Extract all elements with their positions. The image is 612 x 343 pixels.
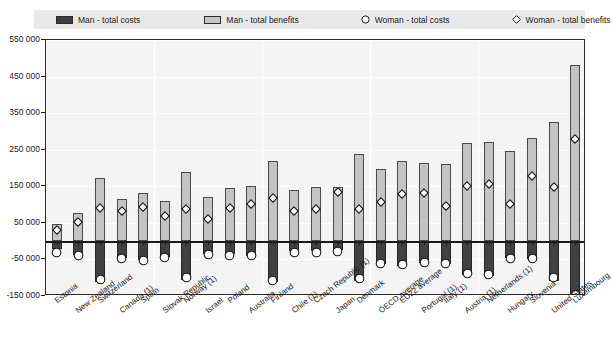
marker-woman-total-costs[interactable]: [73, 247, 84, 265]
marker-woman-total-costs[interactable]: [224, 247, 235, 265]
gridline-vertical: [370, 40, 371, 294]
marker-woman-total-costs[interactable]: [332, 243, 343, 261]
gridline-vertical: [154, 40, 155, 294]
marker-woman-total-costs[interactable]: [203, 246, 214, 264]
zero-axis-line: [46, 241, 584, 242]
y-axis-tick-label: 50 000: [0, 217, 40, 227]
diamond-outline-icon: [512, 15, 521, 24]
legend-item-man-total-benefits[interactable]: Man - total benefits: [204, 15, 298, 25]
legend-item-woman-total-benefits[interactable]: Woman - total benefits: [512, 15, 611, 25]
chart-legend: Man - total costs Man - total benefits W…: [34, 10, 585, 29]
marker-woman-total-costs[interactable]: [51, 244, 62, 262]
y-axis-tick: [41, 295, 45, 296]
y-axis-tick-label: 350 000: [0, 107, 40, 117]
legend-label: Woman - total costs: [375, 15, 450, 25]
marker-woman-total-costs[interactable]: [397, 256, 408, 274]
marker-woman-total-costs[interactable]: [483, 266, 494, 284]
legend-label: Woman - total benefits: [526, 15, 611, 25]
marker-woman-total-benefits[interactable]: [505, 195, 515, 213]
marker-woman-total-benefits[interactable]: [484, 175, 494, 193]
y-axis-tick-label: -150 000: [0, 290, 40, 300]
legend-label: Man - total costs: [78, 15, 140, 25]
gridline-vertical: [478, 40, 479, 294]
marker-woman-total-benefits[interactable]: [289, 202, 299, 220]
y-axis-tick-label: 150 000: [0, 180, 40, 190]
legend-item-woman-total-costs[interactable]: Woman - total costs: [361, 15, 450, 25]
marker-woman-total-costs[interactable]: [159, 249, 170, 267]
gridline-horizontal: [46, 40, 584, 41]
bar-man-total-benefits[interactable]: [354, 154, 364, 241]
filled-square-dark-icon: [56, 16, 73, 24]
gridline-horizontal: [46, 113, 584, 114]
y-axis-tick-label: 250 000: [0, 144, 40, 154]
y-axis-tick-label: 550 000: [0, 34, 40, 44]
y-axis-tick-label: -50 000: [0, 253, 40, 263]
marker-woman-total-costs[interactable]: [246, 247, 257, 265]
marker-woman-total-benefits[interactable]: [117, 202, 127, 220]
marker-woman-total-benefits[interactable]: [246, 195, 256, 213]
marker-woman-total-costs[interactable]: [116, 250, 127, 268]
marker-woman-total-benefits[interactable]: [138, 198, 148, 216]
legend-item-man-total-costs[interactable]: Man - total costs: [56, 15, 140, 25]
marker-woman-total-costs[interactable]: [311, 244, 322, 262]
marker-woman-total-benefits[interactable]: [203, 210, 213, 228]
gridline-horizontal: [46, 150, 584, 151]
marker-woman-total-benefits[interactable]: [160, 207, 170, 225]
marker-woman-total-costs[interactable]: [419, 254, 430, 272]
x-axis-tick-label: Israel: [204, 296, 225, 315]
marker-woman-total-benefits[interactable]: [419, 184, 429, 202]
marker-woman-total-benefits[interactable]: [397, 185, 407, 203]
marker-woman-total-benefits[interactable]: [95, 199, 105, 217]
x-axis-tick-label: Japan: [334, 295, 357, 316]
gridline-horizontal: [46, 77, 584, 78]
gridline-vertical: [262, 40, 263, 294]
filled-square-light-icon: [204, 16, 221, 24]
marker-woman-total-benefits[interactable]: [311, 200, 321, 218]
marker-woman-total-benefits[interactable]: [52, 221, 62, 239]
marker-woman-total-benefits[interactable]: [549, 178, 559, 196]
marker-woman-total-costs[interactable]: [138, 252, 149, 270]
marker-woman-total-benefits[interactable]: [376, 193, 386, 211]
marker-woman-total-benefits[interactable]: [354, 200, 364, 218]
legend-label: Man - total benefits: [226, 15, 298, 25]
marker-woman-total-costs[interactable]: [289, 244, 300, 262]
marker-woman-total-benefits[interactable]: [527, 167, 537, 185]
circle-outline-icon: [361, 15, 370, 24]
marker-woman-total-costs[interactable]: [462, 265, 473, 283]
bar-man-total-benefits[interactable]: [527, 138, 537, 241]
marker-woman-total-benefits[interactable]: [441, 197, 451, 215]
marker-woman-total-benefits[interactable]: [268, 189, 278, 207]
marker-woman-total-benefits[interactable]: [181, 200, 191, 218]
marker-woman-total-benefits[interactable]: [333, 183, 343, 201]
cut-off-title-row: [0, 0, 599, 8]
y-axis-tick-label: 450 000: [0, 71, 40, 81]
marker-woman-total-benefits[interactable]: [462, 177, 472, 195]
bar-man-total-benefits[interactable]: [570, 65, 580, 241]
marker-woman-total-benefits[interactable]: [570, 130, 580, 148]
marker-woman-total-costs[interactable]: [505, 250, 516, 268]
marker-woman-total-costs[interactable]: [375, 255, 386, 273]
marker-woman-total-costs[interactable]: [267, 272, 278, 290]
plot-area: [45, 39, 585, 295]
marker-woman-total-benefits[interactable]: [225, 199, 235, 217]
marker-woman-total-benefits[interactable]: [73, 213, 83, 231]
